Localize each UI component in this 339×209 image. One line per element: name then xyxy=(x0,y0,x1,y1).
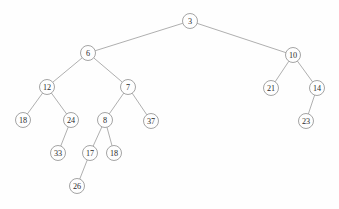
tree-node-17[interactable]: 17 xyxy=(83,146,98,161)
tree-node-7[interactable]: 7 xyxy=(121,80,136,95)
tree-node-12[interactable]: 12 xyxy=(40,80,55,95)
tree-edge-6-to-7 xyxy=(94,58,123,82)
node-label: 17 xyxy=(86,149,94,158)
tree-edge-8-to-18 xyxy=(107,127,112,146)
tree-edge-10-to-14 xyxy=(297,61,312,82)
node-label: 23 xyxy=(302,117,310,126)
tree-edge-12-to-24 xyxy=(51,93,66,114)
node-label: 21 xyxy=(267,84,275,93)
node-label: 6 xyxy=(86,49,90,58)
tree-edge-24-to-33 xyxy=(61,127,69,146)
tree-canvas: 3610127211418248372333171826 xyxy=(0,0,339,209)
tree-edge-6-to-12 xyxy=(53,58,82,82)
tree-node-3[interactable]: 3 xyxy=(183,14,198,29)
tree-node-14[interactable]: 14 xyxy=(310,81,325,96)
node-label: 26 xyxy=(73,182,81,191)
node-label: 12 xyxy=(43,83,51,92)
tree-edge-10-to-21 xyxy=(275,61,289,82)
node-label: 24 xyxy=(67,116,75,125)
tree-edge-3-to-6 xyxy=(95,23,183,51)
tree-edge-7-to-8 xyxy=(109,93,123,114)
binary-tree-diagram: 3610127211418248372333171826 xyxy=(0,0,339,209)
tree-node-6[interactable]: 6 xyxy=(81,46,96,61)
tree-node-37[interactable]: 37 xyxy=(144,114,159,129)
node-label: 7 xyxy=(126,83,130,92)
tree-edge-14-to-23 xyxy=(308,95,314,114)
tree-node-8[interactable]: 8 xyxy=(98,113,113,128)
edge-layer xyxy=(27,23,314,179)
node-label: 14 xyxy=(313,84,321,93)
tree-node-10[interactable]: 10 xyxy=(286,48,301,63)
tree-edge-12-to-18 xyxy=(27,93,42,114)
tree-node-23[interactable]: 23 xyxy=(299,114,314,129)
tree-edge-8-to-17 xyxy=(93,127,102,146)
node-label: 33 xyxy=(54,149,62,158)
tree-edge-17-to-26 xyxy=(80,160,88,179)
tree-node-21[interactable]: 21 xyxy=(264,81,279,96)
tree-node-24[interactable]: 24 xyxy=(64,113,79,128)
node-label: 3 xyxy=(188,17,192,26)
tree-node-18[interactable]: 18 xyxy=(107,146,122,161)
node-label: 10 xyxy=(289,51,297,60)
tree-node-18[interactable]: 18 xyxy=(16,113,31,128)
node-label: 37 xyxy=(147,117,155,126)
tree-edge-3-to-10 xyxy=(197,23,286,52)
node-label: 18 xyxy=(19,116,27,125)
node-label: 8 xyxy=(103,116,107,125)
tree-node-26[interactable]: 26 xyxy=(70,179,85,194)
node-layer: 3610127211418248372333171826 xyxy=(16,14,325,194)
tree-node-33[interactable]: 33 xyxy=(51,146,66,161)
node-label: 18 xyxy=(110,149,118,158)
tree-edge-7-to-37 xyxy=(132,93,147,115)
